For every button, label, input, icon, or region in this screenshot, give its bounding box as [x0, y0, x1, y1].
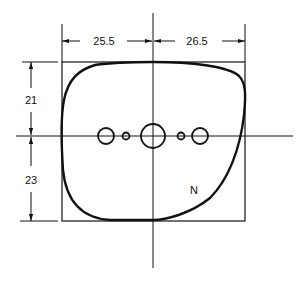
dimension-label-top-height: 21	[25, 94, 37, 106]
dimension-label-right-width: 26.5	[186, 35, 207, 47]
technical-drawing: 25.5 26.5 21 23 N	[0, 0, 305, 283]
dimension-label-left-width: 25.5	[93, 35, 114, 47]
region-label-n: N	[190, 184, 198, 196]
dimension-label-bottom-height: 23	[25, 174, 37, 186]
